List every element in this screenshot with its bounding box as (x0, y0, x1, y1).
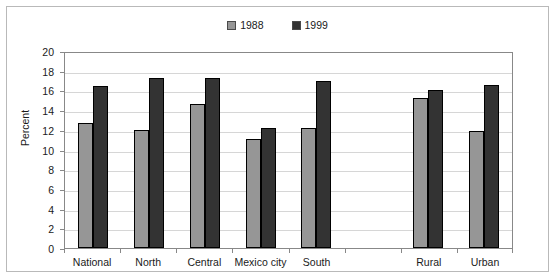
bar-group (177, 53, 233, 248)
bar-1999[interactable] (484, 85, 499, 249)
x-tick-mark (232, 249, 233, 253)
bar-group (400, 53, 456, 248)
y-tick-label: 18 (28, 67, 54, 78)
bar-1988[interactable] (190, 104, 205, 248)
x-tick-slot (345, 249, 401, 275)
bar-1999[interactable] (428, 90, 443, 248)
bar-1988[interactable] (469, 131, 484, 248)
x-tick-mark (512, 249, 513, 253)
y-tick-label: 16 (28, 86, 54, 97)
y-tick-label: 10 (28, 146, 54, 157)
x-tick-mark (457, 249, 458, 253)
bar-1988[interactable] (413, 98, 428, 248)
bar-1999[interactable] (93, 86, 108, 248)
x-tick-mark (289, 249, 290, 253)
bar-1988[interactable] (78, 123, 93, 248)
bars-layer (65, 53, 512, 248)
x-tick-label: Mexico city (234, 257, 286, 268)
x-axis: NationalNorthCentralMexico citySouthRura… (64, 249, 513, 275)
bar-1988[interactable] (301, 128, 316, 248)
x-tick-slot: National (64, 249, 120, 275)
legend-swatch-icon (227, 21, 236, 30)
bar-group (344, 53, 400, 248)
legend-item[interactable]: 1988 (227, 20, 263, 31)
x-tick-mark (401, 249, 402, 253)
x-tick-label: South (303, 257, 330, 268)
y-tick-label: 4 (28, 205, 54, 216)
bar-group (289, 53, 345, 248)
legend-swatch-icon (292, 21, 301, 30)
x-tick-slot: Mexico city (232, 249, 288, 275)
legend-label: 1988 (240, 20, 263, 31)
chart-figure: 19881999 Percent 20181614121086420 Natio… (0, 0, 555, 280)
x-tick-label: North (135, 257, 161, 268)
x-tick-label: Central (187, 257, 221, 268)
x-tick-label: National (73, 257, 112, 268)
x-tick-mark (176, 249, 177, 253)
x-tick-mark (120, 249, 121, 253)
y-tick-label: 6 (28, 185, 54, 196)
chart-legend: 19881999 (0, 20, 555, 31)
y-tick-label: 0 (28, 244, 54, 255)
x-tick-label: Rural (416, 257, 441, 268)
x-tick-slot: North (120, 249, 176, 275)
bar-1988[interactable] (246, 139, 261, 248)
x-tick-label: Urban (471, 257, 500, 268)
bar-group (233, 53, 289, 248)
x-tick-mark (64, 249, 65, 253)
bar-group (121, 53, 177, 248)
x-tick-slot: Rural (401, 249, 457, 275)
bar-1999[interactable] (149, 78, 164, 248)
bar-group (456, 53, 512, 248)
bar-1999[interactable] (205, 78, 220, 248)
y-axis: Percent 20181614121086420 (0, 52, 64, 249)
legend-label: 1999 (305, 20, 328, 31)
y-tick-label: 14 (28, 106, 54, 117)
y-tick-label: 20 (28, 47, 54, 58)
x-tick-slot: Urban (457, 249, 513, 275)
legend-item[interactable]: 1999 (292, 20, 328, 31)
bar-group (65, 53, 121, 248)
bar-1999[interactable] (316, 81, 331, 248)
x-tick-mark (345, 249, 346, 253)
y-tick-label: 2 (28, 224, 54, 235)
x-tick-slot: South (289, 249, 345, 275)
plot-area (64, 52, 513, 249)
y-tick-label: 12 (28, 126, 54, 137)
bar-1988[interactable] (134, 130, 149, 248)
bar-1999[interactable] (261, 128, 276, 248)
x-tick-slot: Central (176, 249, 232, 275)
y-tick-label: 8 (28, 165, 54, 176)
